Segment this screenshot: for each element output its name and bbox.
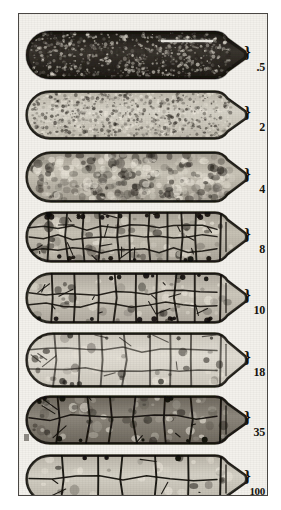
capsule-outline [25,211,251,267]
capsule-outline [25,395,251,449]
capsule-specimen [25,30,251,84]
brace-marker: } [244,409,251,426]
brace-marker: } [244,226,251,243]
capsule-specimen [25,332,251,392]
capsule-outline [25,454,251,496]
capsule-outline [25,30,251,84]
scale-bar [161,40,213,42]
panel-35: }35 [19,395,268,445]
capsule-specimen [25,90,251,144]
panel-label: .5 [257,61,265,73]
capsule-specimen [25,211,251,267]
capsule-specimen [25,454,251,496]
capsule-outline [25,332,251,392]
panel-10: }10 [19,272,268,324]
panel-label: 8 [259,243,265,255]
panel-18: }18 [19,332,268,388]
brace-marker: } [244,287,251,304]
capsule-outline [25,151,251,207]
capsule-outline [25,90,251,144]
panel-label: 2 [259,121,265,133]
plate-frame: }.5 }2 [18,13,268,496]
panel-100: }100 [19,454,268,496]
panel-4: }4 [19,151,268,203]
margin-artifact [24,434,29,441]
brace-marker: } [244,104,251,121]
capsule-specimen [25,151,251,207]
panel-label: 100 [249,485,265,496]
panel-2: }2 [19,90,268,140]
capsule-specimen [25,272,251,328]
brace-marker: } [244,166,251,183]
panel-label: 35 [254,426,265,438]
panel-label: 18 [254,366,265,378]
capsule-outline [25,272,251,328]
panel-8: }8 [19,211,268,263]
panel-label: 10 [254,304,265,316]
brace-marker: } [244,349,251,366]
brace-marker: } [244,468,251,485]
capsule-specimen [25,395,251,449]
panel-label: 4 [259,183,265,195]
brace-marker: } [244,44,251,61]
panel-p5: }.5 [19,30,268,80]
figure-plate: }.5 }2 [0,0,281,510]
